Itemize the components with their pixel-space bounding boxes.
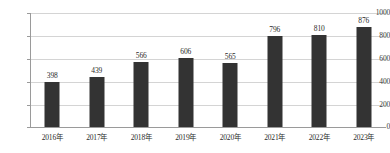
bar-2019[interactable]	[178, 58, 193, 127]
x-axis-label-2020: 2020年	[220, 134, 241, 142]
bar-chart: 1000 800 600 400 200 0 398 2016年 439 201…	[0, 0, 390, 153]
bar-value-2023: 876	[358, 17, 369, 25]
bar-2020[interactable]	[223, 63, 238, 127]
bar-2023[interactable]	[356, 27, 371, 127]
bar-2022[interactable]	[312, 35, 327, 127]
bar-value-2022: 810	[314, 25, 325, 33]
bar-group-2023: 876 2023年	[342, 0, 387, 153]
bar-group-2019: 606 2019年	[164, 0, 209, 153]
x-axis-label-2019: 2019年	[175, 134, 196, 142]
bar-2017[interactable]	[89, 77, 104, 127]
bar-2021[interactable]	[267, 36, 282, 127]
bars-layer: 398 2016年 439 2017年 566 2018年 606 2019年 …	[30, 0, 386, 153]
x-axis-label-2016: 2016年	[42, 134, 63, 142]
bar-group-2022: 810 2022年	[297, 0, 342, 153]
bar-value-2018: 566	[136, 52, 147, 60]
bar-value-2017: 439	[91, 67, 102, 75]
x-axis-label-2022: 2022年	[309, 134, 330, 142]
x-axis-label-2018: 2018年	[131, 134, 152, 142]
bar-group-2020: 565 2020年	[208, 0, 253, 153]
x-axis-label-2017: 2017年	[86, 134, 107, 142]
bar-value-2021: 796	[269, 26, 280, 34]
bar-2018[interactable]	[134, 62, 149, 127]
x-axis-label-2021: 2021年	[264, 134, 285, 142]
x-axis-label-2023: 2023年	[353, 134, 374, 142]
bar-group-2021: 796 2021年	[253, 0, 298, 153]
bar-group-2018: 566 2018年	[119, 0, 164, 153]
bar-group-2016: 398 2016年	[30, 0, 75, 153]
bar-value-2020: 565	[225, 53, 236, 61]
bar-2016[interactable]	[45, 82, 60, 127]
bar-group-2017: 439 2017年	[75, 0, 120, 153]
bar-value-2019: 606	[180, 48, 191, 56]
bar-value-2016: 398	[47, 72, 58, 80]
